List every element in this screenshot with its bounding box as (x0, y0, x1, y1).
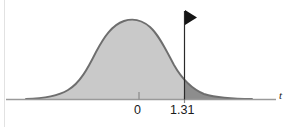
t-distribution-figure: 0 1.31 t (0, 0, 295, 127)
curve-body-area (26, 20, 275, 99)
tick-label-zero: 0 (134, 104, 141, 117)
tick-label-critical-value: 1.31 (170, 104, 194, 117)
axis-variable-label: t (279, 90, 282, 101)
distribution-plot (0, 0, 295, 127)
flag-marker-icon (185, 10, 197, 25)
